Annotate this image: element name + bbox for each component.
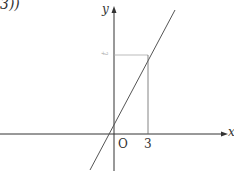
x-axis-arrow-icon: [221, 132, 228, 137]
origin-label: O: [118, 137, 128, 151]
coordinate-graph: [0, 0, 234, 171]
x-tick-label: 3: [144, 137, 152, 151]
x-axis-label: x: [228, 125, 234, 139]
function-line: [90, 10, 175, 170]
y-axis-label: y: [102, 2, 109, 16]
y-tick-label: t: [99, 51, 110, 55]
y-axis-arrow-icon: [112, 6, 117, 13]
